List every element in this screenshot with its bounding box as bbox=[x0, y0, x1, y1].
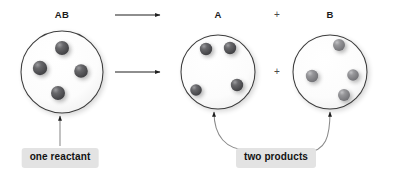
molecule-sphere bbox=[200, 43, 212, 55]
molecule-sphere bbox=[55, 41, 69, 55]
product-b-formula-label: B bbox=[326, 10, 333, 20]
molecule-sphere bbox=[51, 86, 65, 100]
molecule-sphere bbox=[33, 61, 47, 75]
diagram-canvas: AB A B + + one reactant two products bbox=[0, 0, 406, 175]
reactant-formula-label: AB bbox=[55, 10, 69, 20]
leader-line-product-b bbox=[306, 112, 330, 152]
molecule-sphere bbox=[347, 69, 359, 81]
reactant-flask bbox=[21, 31, 103, 113]
callout-one-reactant: one reactant bbox=[22, 148, 99, 168]
molecule-sphere bbox=[306, 70, 318, 82]
product-b-flask bbox=[293, 35, 367, 109]
plus-sign-top: + bbox=[274, 10, 280, 20]
reaction-arrows bbox=[115, 15, 160, 72]
leader-line-product-a bbox=[214, 112, 248, 150]
molecule-sphere bbox=[190, 84, 202, 96]
plus-sign-middle: + bbox=[274, 67, 280, 77]
flask-outline-a bbox=[181, 35, 255, 109]
product-a-formula-label: A bbox=[214, 10, 221, 20]
molecule-sphere bbox=[338, 89, 350, 101]
molecule-sphere bbox=[231, 79, 243, 91]
callout-two-products: two products bbox=[236, 148, 316, 168]
molecule-sphere bbox=[333, 39, 345, 51]
leader-lines bbox=[60, 112, 330, 152]
molecule-sphere bbox=[224, 42, 236, 54]
molecule-sphere bbox=[74, 64, 88, 78]
product-a-flask bbox=[181, 35, 255, 109]
